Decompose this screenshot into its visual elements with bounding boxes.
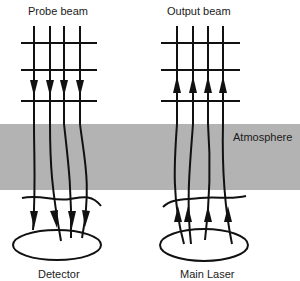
- probe-arrowheads-down: [30, 80, 84, 96]
- probe-wavefront-lines: [21, 43, 97, 101]
- diagram-canvas: Probe beam Output beam Atmosphere Detect…: [0, 0, 300, 281]
- output-wavefront-lines: [161, 43, 240, 101]
- output-arrowheads-up: [173, 76, 227, 93]
- output-beam-label: Output beam: [167, 5, 231, 17]
- main-laser-label: Main Laser: [180, 268, 234, 280]
- main-laser-ellipse: [160, 229, 248, 261]
- probe-beam-label: Probe beam: [28, 5, 88, 17]
- detector-arrowheads-down: [30, 210, 90, 228]
- laser-arrowheads-up: [174, 206, 232, 222]
- atmosphere-label: Atmosphere: [233, 131, 292, 143]
- detector-ellipse: [13, 230, 101, 260]
- detector-label: Detector: [38, 268, 80, 280]
